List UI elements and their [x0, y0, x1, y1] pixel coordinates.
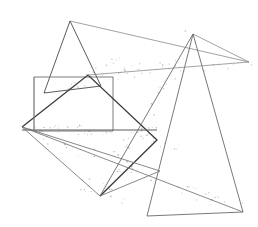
noise-around-central-junction [77, 86, 78, 87]
noise-along-horizontal-baseline [58, 127, 59, 128]
noise-along-long-diagonal [196, 199, 197, 200]
noise-along-long-diagonal [224, 201, 225, 202]
noise-along-upper-right-diagonal [118, 74, 119, 75]
noise-around-mid-right-junction [146, 134, 148, 136]
noise-along-apex-descender [153, 114, 154, 115]
noise-along-apex-descender [189, 51, 190, 52]
noise-along-long-diagonal [150, 180, 152, 182]
noise-along-horizontal-baseline [59, 132, 60, 133]
noise-along-long-diagonal [137, 169, 138, 170]
noise-around-mid-right-junction [178, 145, 179, 146]
noise-around-mid-right-junction [159, 131, 160, 132]
noise-along-long-diagonal [208, 192, 209, 193]
noise-around-mid-right-junction [180, 141, 181, 142]
noise-around-bottom-vertex [85, 191, 86, 192]
noise-along-horizontal-baseline [49, 127, 51, 129]
noise-along-upper-right-diagonal [146, 69, 147, 70]
noise-along-upper-right-diagonal [162, 66, 163, 67]
noise-along-horizontal-baseline [53, 127, 54, 128]
noise-along-apex-descender [117, 171, 118, 172]
noise-along-horizontal-baseline [87, 134, 88, 135]
noise-along-long-diagonal [34, 127, 36, 129]
noise-around-mid-right-junction [160, 146, 161, 147]
noise-along-upper-right-diagonal [204, 70, 206, 72]
noise-around-mid-right-junction [161, 135, 162, 136]
noise-around-bottom-vertex [122, 199, 123, 200]
noise-along-horizontal-baseline [148, 127, 149, 128]
noise-along-long-diagonal [78, 155, 79, 156]
noise-along-apex-descender [109, 188, 111, 190]
noise-along-horizontal-baseline [31, 128, 32, 129]
noise-along-horizontal-baseline [106, 132, 107, 133]
noise-along-apex-descender [123, 139, 124, 140]
noise-along-upper-right-diagonal [251, 64, 252, 65]
noise-along-apex-descender [103, 183, 104, 184]
noise-along-upper-right-diagonal [124, 67, 125, 68]
noise-along-long-diagonal [170, 188, 171, 189]
noise-along-upper-right-diagonal [162, 65, 163, 66]
noise-along-long-diagonal [201, 191, 202, 192]
noise-along-apex-descender [117, 154, 119, 156]
noise-around-central-junction [111, 58, 112, 59]
noise-along-long-diagonal [94, 156, 96, 158]
figure-root [0, 0, 258, 227]
noise-around-central-junction [116, 59, 117, 60]
noise-along-apex-descender [178, 53, 179, 54]
noise-along-horizontal-baseline [140, 131, 141, 132]
noise-around-central-junction [68, 98, 69, 99]
noise-along-upper-right-diagonal [140, 68, 141, 69]
noise-around-bottom-vertex [121, 198, 122, 199]
noise-along-horizontal-baseline [156, 127, 157, 128]
noise-around-bottom-vertex [89, 178, 91, 180]
noise-along-long-diagonal [43, 139, 44, 140]
noise-along-apex-descender [128, 138, 129, 139]
noise-along-upper-right-diagonal [134, 77, 135, 78]
noise-around-central-junction [71, 83, 72, 84]
noise-along-horizontal-baseline [43, 127, 44, 128]
left-triangle [44, 21, 101, 93]
noise-along-upper-right-diagonal [233, 64, 234, 65]
noise-along-upper-right-diagonal [169, 63, 170, 64]
noise-along-long-diagonal [164, 180, 165, 181]
noise-around-central-junction [106, 65, 107, 66]
noise-along-horizontal-baseline [145, 135, 146, 136]
noise-around-bottom-vertex [91, 191, 92, 192]
noise-along-long-diagonal [187, 186, 189, 188]
lower-left-wedge [22, 127, 160, 196]
noise-around-mid-right-junction [151, 143, 152, 144]
noise-along-apex-descender [174, 78, 176, 80]
noise-along-apex-descender [148, 106, 149, 107]
noise-along-apex-descender [111, 188, 113, 190]
noise-around-bottom-vertex [124, 198, 125, 199]
noise-around-central-junction [119, 58, 120, 59]
noise-along-upper-right-diagonal [214, 67, 215, 68]
noise-along-horizontal-baseline [131, 132, 132, 133]
noise-around-mid-right-junction [140, 135, 142, 137]
noise-along-upper-right-diagonal [227, 68, 229, 70]
noise-along-apex-descender [113, 151, 115, 153]
noise-along-long-diagonal [205, 194, 206, 195]
noise-along-apex-descender [126, 161, 128, 163]
noise-around-central-junction [70, 86, 71, 87]
noise-around-central-junction [86, 74, 87, 75]
noise-along-apex-descender [175, 59, 176, 60]
noise-along-apex-descender [115, 151, 116, 152]
noise-along-long-diagonal [210, 204, 211, 205]
noise-along-long-diagonal [131, 172, 132, 173]
shape-layer [22, 21, 249, 216]
noise-along-long-diagonal [217, 196, 218, 197]
noise-along-upper-right-diagonal [91, 67, 92, 68]
noise-along-horizontal-baseline [144, 131, 145, 132]
noise-along-horizontal-baseline [84, 133, 85, 134]
noise-along-horizontal-baseline [103, 134, 104, 135]
noise-along-upper-right-diagonal [180, 70, 181, 71]
noise-around-central-junction [74, 82, 75, 83]
noise-around-bottom-vertex [84, 189, 85, 190]
upper-right-diagonal [88, 62, 249, 75]
noise-around-bottom-vertex [80, 189, 82, 191]
apex-descender [100, 34, 193, 196]
noise-around-mid-right-junction [176, 149, 177, 150]
noise-along-upper-right-diagonal [95, 67, 97, 69]
noise-along-long-diagonal [106, 161, 107, 162]
noise-along-long-diagonal [47, 143, 48, 144]
